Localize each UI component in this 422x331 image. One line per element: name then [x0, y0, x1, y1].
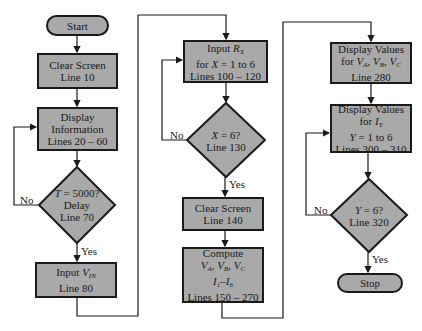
t: = 1 to 6	[218, 58, 255, 70]
start-label: Start	[67, 20, 88, 32]
t: Input	[56, 266, 82, 278]
box-text: Delay	[64, 199, 90, 211]
yes-label-y6: Yes	[372, 253, 388, 265]
sub: 6	[229, 281, 233, 289]
box-text: Lines 150 – 270	[187, 291, 258, 303]
box-text: X = 6?	[212, 129, 241, 141]
box-text: Clear Screen	[49, 59, 106, 71]
box-text: VA, VB, VC	[201, 259, 245, 275]
box-text: Display	[60, 111, 94, 123]
box-text: for VA, VB, VC	[341, 55, 401, 71]
sub: 1	[217, 281, 221, 289]
no-label-x6: No	[170, 129, 183, 141]
box-text: Information	[51, 123, 104, 135]
sub: IN	[89, 272, 96, 280]
display-information-box: Display Information Lines 20 – 60	[37, 107, 118, 151]
t: Input	[207, 42, 233, 54]
box-text: Line 80	[59, 282, 93, 294]
clear-screen-10-box: Clear Screen Line 10	[37, 53, 118, 89]
cond: = 6?	[218, 129, 240, 141]
delay-decision-text: T = 5000? Delay Line 70	[45, 183, 109, 227]
box-text: Y = 1 to 6	[350, 131, 393, 143]
box-text: Y = 6?	[355, 204, 383, 216]
yes-label-delay: Yes	[81, 245, 97, 257]
box-text: Line 70	[60, 211, 94, 223]
no-label-delay: No	[20, 194, 33, 206]
box-text: Input VIN	[56, 266, 96, 282]
stop-label: Stop	[360, 277, 380, 289]
t: for	[196, 58, 212, 70]
sub: X	[240, 48, 244, 56]
box-text: Input RX	[207, 42, 244, 58]
box-text: Clear Screen	[195, 202, 252, 214]
box-text: for IY	[359, 115, 382, 131]
yes-label-x6: Yes	[229, 178, 245, 190]
sub: C	[241, 265, 246, 273]
input-rx-box: Input RX for X = 1 to 6 Lines 100 – 120	[183, 40, 268, 83]
t: for	[359, 115, 375, 127]
box-text: for X = 1 to 6	[196, 58, 255, 70]
box-text: Lines 20 – 60	[47, 135, 107, 147]
t: for	[341, 55, 357, 67]
clear-screen-140-box: Clear Screen Line 140	[182, 197, 264, 231]
compute-box: Compute VA, VB, VC I1–I6 Lines 150 – 270	[182, 247, 264, 303]
box-text: Display Values	[338, 43, 404, 55]
sub: B	[380, 61, 384, 69]
box-text: Lines 100 – 120	[190, 70, 261, 82]
box-text: Line 130	[206, 141, 245, 153]
box-text: Display Values	[338, 103, 404, 115]
input-vin-box: Input VIN Line 80	[35, 262, 117, 298]
var: R	[233, 42, 240, 54]
box-text: Compute	[203, 247, 243, 259]
t: = 1 to 6	[356, 131, 393, 143]
box-text: Line 140	[203, 214, 242, 226]
x6-decision-text: X = 6? Line 130	[196, 127, 256, 155]
stop-terminal: Stop	[337, 273, 403, 293]
cond: = 6?	[361, 204, 383, 216]
sub: A	[363, 61, 367, 69]
sub: Y	[379, 121, 383, 129]
sub: A	[208, 265, 212, 273]
box-text: Line 10	[61, 71, 95, 83]
box-text: Lines 300 – 310	[335, 143, 406, 155]
box-text: Line 320	[349, 216, 388, 228]
box-text: Line 280	[351, 71, 390, 83]
display-values-i-box: Display Values for IY Y = 1 to 6 Lines 3…	[330, 104, 412, 153]
y6-decision-text: Y = 6? Line 320	[339, 202, 399, 230]
box-text: T = 5000?	[55, 187, 100, 199]
display-values-v-box: Display Values for VA, VB, VC Line 280	[330, 42, 412, 84]
sub: C	[396, 61, 401, 69]
sub: B	[224, 265, 228, 273]
box-text: I1–I6	[213, 275, 233, 291]
var: V	[82, 266, 89, 278]
cond: = 5000?	[61, 187, 100, 199]
start-terminal: Start	[46, 15, 109, 36]
no-label-y6: No	[314, 204, 327, 216]
